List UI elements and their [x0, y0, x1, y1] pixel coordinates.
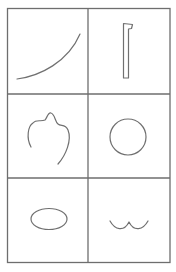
bracket-shape [124, 24, 133, 79]
blob-shape [28, 113, 69, 164]
wave-shape [110, 221, 148, 229]
shape-grid-svg [0, 0, 176, 272]
panel-wave [110, 221, 148, 229]
panel-bracket [124, 24, 133, 79]
panel-blob [28, 113, 69, 164]
curve-shape [17, 34, 80, 79]
panel-circle [110, 119, 146, 155]
panel-curve [17, 34, 80, 79]
ellipse-shape [31, 209, 67, 230]
panel-ellipse [31, 209, 67, 230]
circle-shape [110, 119, 146, 155]
shape-grid-figure [0, 0, 176, 272]
